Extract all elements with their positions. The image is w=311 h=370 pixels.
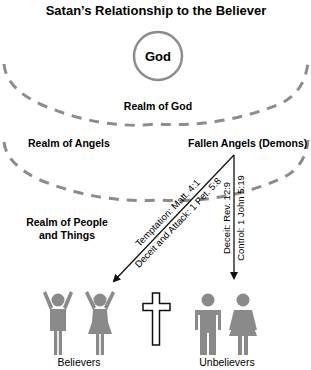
deceit-attack-reference: Deceit and Attack: 1 Pet. 5:8 (132, 175, 223, 269)
control-reference: Control: 1 John 5:19 (235, 175, 246, 261)
unbelievers-label: Unbelievers (199, 356, 254, 368)
god-node: God (134, 32, 182, 80)
believers-label: Believers (57, 356, 100, 368)
realm-of-angels-label: Realm of Angels (28, 137, 110, 149)
arrow-to-believers: Temptation: Matt. 4:1 Deceit and Attack:… (114, 155, 234, 281)
realm-of-god-label: Realm of God (124, 100, 192, 112)
raised-arms-man-icon (43, 291, 73, 355)
fallen-angels-label: Fallen Angels (Demons) (188, 137, 307, 149)
woman-icon (229, 294, 257, 356)
realm-of-people-label-line1: Realm of People (26, 216, 108, 228)
man-icon (195, 294, 221, 356)
realm-of-angels-boundary (4, 140, 308, 201)
diagram-title: Satan’s Relationship to the Believer (46, 3, 267, 18)
arrow-to-unbelievers: Deceit: Rev. 12:9 Control: 1 John 5:19 (221, 155, 246, 278)
god-label: God (145, 49, 171, 64)
satan-relationship-diagram: Satan’s Relationship to the Believer God… (0, 0, 311, 370)
realm-of-people-label-line2: and Things (39, 229, 95, 241)
raised-arms-woman-icon (85, 291, 115, 355)
deceit-reference: Deceit: Rev. 12:9 (221, 182, 232, 254)
cross-icon (143, 293, 170, 345)
